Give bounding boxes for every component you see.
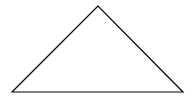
diagram-canvas [0,0,193,99]
triangle-shape [12,6,183,92]
